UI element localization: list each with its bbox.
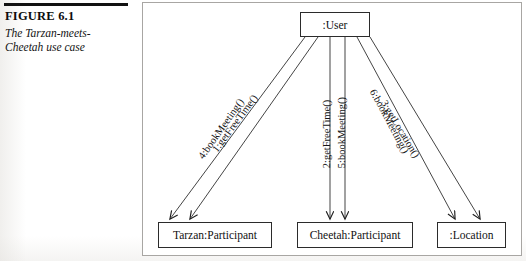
message-line-4	[190, 37, 318, 219]
figure-page: FIGURE 6.1 The Tarzan-meets-Cheetah use …	[0, 0, 526, 261]
object-box-location[interactable]: :Location	[437, 222, 506, 248]
figure-number: FIGURE 6.1	[5, 9, 135, 24]
message-label-5: 5:bookMeeting()	[337, 97, 348, 168]
object-label-user: :User	[323, 19, 348, 31]
message-label-2: 2:getFreeTime()	[322, 100, 333, 168]
object-label-location: :Location	[449, 229, 493, 241]
object-box-tarzan[interactable]: Tarzan:Participant	[158, 222, 272, 248]
caption-rule	[4, 3, 128, 6]
object-label-tarzan: Tarzan:Participant	[173, 229, 257, 241]
object-box-user[interactable]: :User	[300, 12, 370, 37]
object-box-cheetah[interactable]: Cheetah:Participant	[297, 222, 413, 248]
figure-caption: The Tarzan-meets-Cheetah use case	[5, 26, 127, 54]
object-label-cheetah: Cheetah:Participant	[310, 229, 401, 241]
